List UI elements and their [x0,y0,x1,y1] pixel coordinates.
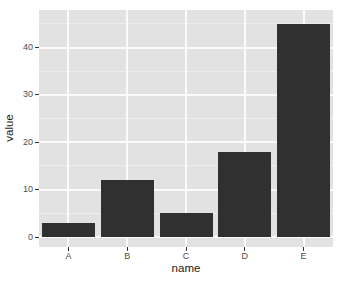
y-tick-mark [35,142,39,143]
y-tick-mark [35,237,39,238]
bar-E [277,24,330,237]
x-gridline-major [185,10,187,247]
y-tick-label: 40 [0,42,33,53]
x-tick-label: D [225,251,265,262]
x-tick-label: C [166,251,206,262]
bar-C [160,213,213,237]
x-tick-label: E [284,251,324,262]
y-tick-mark [35,47,39,48]
bar-chart-figure: value name 010203040ABCDE [0,0,340,288]
x-tick-label: B [107,251,147,262]
y-tick-label: 10 [0,184,33,195]
plot-panel [39,10,333,247]
bar-B [101,180,154,237]
bar-A [42,223,95,237]
y-tick-label: 20 [0,137,33,148]
y-tick-mark [35,94,39,95]
y-tick-mark [35,189,39,190]
x-axis-title: name [172,262,201,274]
y-tick-label: 0 [0,232,33,243]
bar-D [218,152,271,237]
x-tick-label: A [48,251,88,262]
x-gridline-major [67,10,69,247]
y-tick-label: 30 [0,89,33,100]
